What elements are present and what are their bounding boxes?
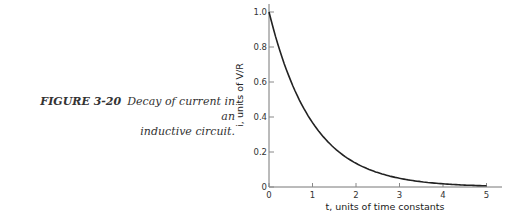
y-axis-ticks: 00.20.40.60.81.0 xyxy=(253,7,274,192)
svg-text:1: 1 xyxy=(310,190,315,200)
svg-text:4: 4 xyxy=(440,190,445,200)
svg-text:2: 2 xyxy=(353,190,358,200)
y-axis-label: i, units of V/R xyxy=(234,63,245,127)
svg-text:0.4: 0.4 xyxy=(253,112,267,122)
decay-chart: 00.20.40.60.81.0 012345 t, units of time… xyxy=(0,0,523,219)
x-axis-label: t, units of time constants xyxy=(325,201,444,212)
x-axis-ticks: 012345 xyxy=(266,183,489,200)
decay-curve xyxy=(269,12,487,186)
svg-text:0: 0 xyxy=(266,190,271,200)
axes xyxy=(269,4,502,187)
svg-text:5: 5 xyxy=(484,190,489,200)
svg-text:0.8: 0.8 xyxy=(253,42,267,52)
svg-text:0.6: 0.6 xyxy=(253,77,267,87)
svg-text:0.2: 0.2 xyxy=(253,147,267,157)
svg-text:1.0: 1.0 xyxy=(253,7,267,17)
svg-text:3: 3 xyxy=(397,190,402,200)
